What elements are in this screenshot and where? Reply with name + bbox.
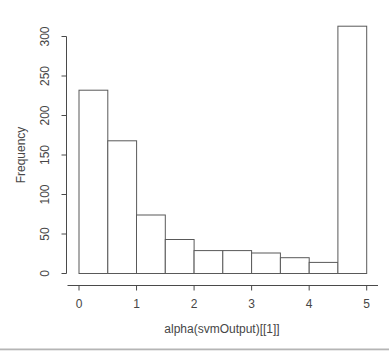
y-tick-label: 0: [38, 270, 52, 277]
x-axis-label: alpha(svmOutput)[[1]]: [164, 322, 279, 336]
histogram-bar: [165, 240, 194, 274]
x-tick-label: 1: [133, 297, 140, 311]
y-tick-label: 200: [38, 105, 52, 125]
bottom-divider: [0, 349, 389, 351]
histogram-bar: [137, 215, 166, 274]
x-tick-label: 5: [363, 297, 370, 311]
histogram-bars: [79, 26, 367, 273]
histogram-bar: [309, 262, 338, 273]
y-tick-label: 50: [38, 227, 52, 241]
r-plot-window: 050100150200250300 012345 alpha(svmOutpu…: [0, 0, 389, 355]
y-tick-label: 100: [38, 184, 52, 204]
histogram-bar: [252, 253, 281, 274]
y-tick-label: 150: [38, 145, 52, 165]
x-tick-label: 4: [306, 297, 313, 311]
histogram-bar: [338, 26, 367, 273]
y-axis: 050100150200250300: [38, 26, 67, 277]
x-tick-label: 3: [248, 297, 255, 311]
histogram-bar: [79, 90, 108, 273]
y-axis-label: Frequency: [14, 127, 28, 184]
histogram-bar: [223, 251, 252, 274]
histogram-chart: 050100150200250300 012345 alpha(svmOutpu…: [0, 0, 389, 355]
x-axis: 012345: [68, 286, 379, 312]
x-tick-label: 2: [191, 297, 198, 311]
y-tick-label: 300: [38, 26, 52, 46]
histogram-bar: [280, 258, 309, 274]
x-tick-label: 0: [76, 297, 83, 311]
histogram-bar: [108, 141, 137, 274]
histogram-bar: [194, 251, 223, 274]
y-tick-label: 250: [38, 66, 52, 86]
